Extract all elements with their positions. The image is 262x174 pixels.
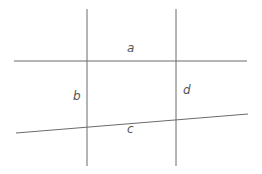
label-c: c xyxy=(127,122,134,136)
diagram-canvas: a b c d xyxy=(0,0,262,174)
label-d: d xyxy=(183,83,191,97)
label-b: b xyxy=(73,89,81,103)
label-a: a xyxy=(127,41,134,55)
